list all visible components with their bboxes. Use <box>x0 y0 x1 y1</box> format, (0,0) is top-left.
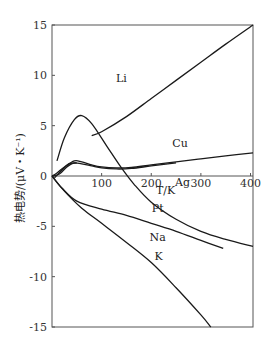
y-tick-label: 5 <box>40 120 47 133</box>
x-tick-label: 100 <box>91 177 112 190</box>
y-tick-label: 0 <box>40 170 47 183</box>
y-tick-label: -15 <box>29 321 47 334</box>
y-tick-label: -10 <box>29 271 47 284</box>
y-tick-label: 15 <box>33 19 47 32</box>
curve-ag <box>52 163 176 176</box>
curve-label-cu: Cu <box>172 137 188 150</box>
y-axis-label: 热电势/(μV・K⁻¹) <box>14 133 27 223</box>
x-axis-label: T/K <box>156 184 176 197</box>
thermopower-chart: 151050-5-10-15100200300400 LiCuAgPtNaK T… <box>0 0 267 347</box>
curve-label-na: Na <box>150 231 167 244</box>
x-tick-label: 400 <box>240 177 261 190</box>
y-tick-label: -5 <box>36 220 47 233</box>
curve-label-ag: Ag <box>174 176 190 189</box>
y-tick-label: 10 <box>33 69 47 82</box>
plot-frame <box>52 25 253 327</box>
curve-label-pt: Pt <box>152 202 164 215</box>
curve-k <box>52 176 211 327</box>
x-tick-label: 300 <box>190 177 211 190</box>
curve-label-k: K <box>155 250 164 263</box>
curve-label-li: Li <box>116 72 127 85</box>
